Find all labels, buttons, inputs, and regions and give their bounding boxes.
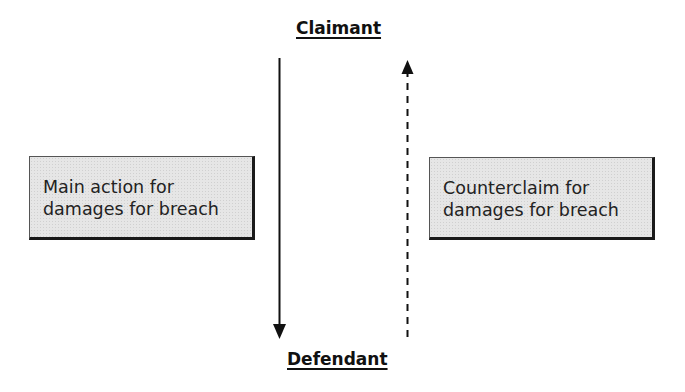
counterclaim-text-line-1: Counterclaim for xyxy=(443,177,652,199)
defendant-label: Defendant xyxy=(287,349,388,369)
main-action-arrow xyxy=(273,58,286,339)
claimant-label: Claimant xyxy=(296,18,381,38)
main-action-text-line-1: Main action for xyxy=(43,176,252,198)
arrow-up-icon xyxy=(402,60,414,74)
main-action-text-line-2: damages for breach xyxy=(43,198,252,220)
counterclaim-arrow xyxy=(402,60,414,337)
counterclaim-text-line-2: damages for breach xyxy=(443,199,652,221)
main-action-box: Main action for damages for breach xyxy=(29,156,255,240)
counterclaim-box: Counterclaim for damages for breach xyxy=(429,157,655,240)
arrow-down-icon xyxy=(273,324,286,339)
